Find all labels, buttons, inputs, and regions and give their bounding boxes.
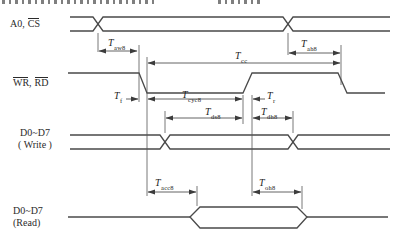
data-write-mode: ( Write ) [7,139,63,151]
timing-label-tds8: Tds8 [205,106,220,119]
waveform-canvas [0,0,397,247]
signal-label-address: A0,CS [10,18,40,30]
data-write-bus-name: D0~D7 [7,127,63,139]
reference-lines [98,33,341,209]
control-comma: , [29,77,32,88]
timing-label-toh8: Toh8 [259,177,275,190]
timing-diagram: A0,CS WR,RD D0~D7 ( Write ) D0~D7 (Read)… [0,0,397,247]
cs-overlined: CS [28,18,40,30]
waveform-data-read-bus [68,207,388,228]
data-read-mode: (Read) [13,217,43,229]
timing-label-taw8: Taw8 [108,37,125,50]
timing-label-tcc: Tcc [235,50,247,63]
data-read-bus-name: D0~D7 [13,205,43,217]
rd-overlined: RD [35,77,49,89]
timing-label-tdh8: Tdh8 [261,106,277,119]
timing-label-tcyc8: Tcyc8 [182,89,201,102]
wr-overlined: WR [13,77,29,89]
dimension-arrows [99,51,340,192]
timing-label-tf: Tf [114,90,122,103]
timing-label-tah8: Tah8 [301,38,317,51]
signal-label-data-write: D0~D7 ( Write ) [7,127,63,151]
signal-label-data-read: D0~D7 (Read) [13,205,43,229]
waveform-address-bus [70,17,390,31]
timing-label-tacc8: Tacc8 [155,177,173,190]
signal-label-control: WR,RD [13,77,49,89]
waveform-data-write-bus [70,135,390,149]
timing-label-tr: Tr [267,90,275,103]
address-prefix: A0, [10,18,25,29]
